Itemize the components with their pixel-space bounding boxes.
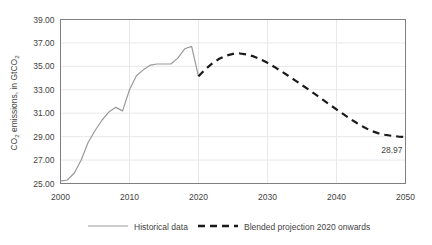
x-tick-label-2040: 2040 bbox=[327, 192, 346, 202]
legend-label: Historical data bbox=[134, 222, 188, 232]
chart-background bbox=[0, 0, 432, 245]
legend-label: Blended projection 2020 onwards bbox=[244, 222, 370, 232]
y-tick-label-39.00: 39.00 bbox=[33, 15, 55, 25]
y-tick-label-37.00: 37.00 bbox=[33, 38, 55, 48]
x-tick-label-2050: 2050 bbox=[396, 192, 415, 202]
y-tick-label-35.00: 35.00 bbox=[33, 61, 55, 71]
x-tick-label-2010: 2010 bbox=[120, 192, 139, 202]
co2-emissions-line-chart: 25.0027.0029.0031.0033.0035.0037.0039.00… bbox=[0, 0, 432, 245]
data-annotations: 28.97 bbox=[381, 145, 403, 155]
chart-canvas: 25.0027.0029.0031.0033.0035.0037.0039.00… bbox=[0, 0, 432, 245]
x-tick-label-2020: 2020 bbox=[189, 192, 208, 202]
y-tick-label-31.00: 31.00 bbox=[33, 108, 55, 118]
y-tick-label-29.00: 29.00 bbox=[33, 132, 55, 142]
y-tick-label-25.00: 25.00 bbox=[33, 179, 55, 189]
y-tick-label-33.00: 33.00 bbox=[33, 85, 55, 95]
x-tick-label-2000: 2000 bbox=[51, 192, 70, 202]
y-tick-label-27.00: 27.00 bbox=[33, 155, 55, 165]
data-label-endpoint-value: 28.97 bbox=[381, 145, 403, 155]
x-tick-label-2030: 2030 bbox=[258, 192, 277, 202]
